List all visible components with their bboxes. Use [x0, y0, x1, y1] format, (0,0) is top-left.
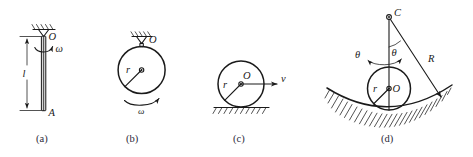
label-omega-a: ω — [56, 43, 63, 54]
label-pivot-b: O — [149, 34, 157, 45]
physics-figure: O ω A l (a) — [0, 0, 473, 157]
panel-caption-c: (c) — [233, 133, 245, 145]
label-velocity-c: v — [281, 73, 286, 84]
label-length-a: l — [23, 68, 26, 79]
label-theta-upper-d: θ — [392, 47, 397, 58]
rod-a — [41, 36, 45, 111]
panel-caption-b: (b) — [126, 133, 139, 145]
panel-caption-d: (d) — [381, 133, 394, 145]
label-radius-R-d: R — [427, 53, 435, 64]
label-disc-center-d: O — [393, 83, 401, 94]
label-pivot-a: O — [49, 31, 57, 42]
panel-caption-a: (a) — [36, 133, 48, 145]
figure-canvas: O ω A l (a) — [0, 0, 473, 157]
label-curvature-center-d: C — [394, 7, 402, 18]
label-theta-lower-d: θ — [355, 49, 360, 60]
label-end-a: A — [48, 107, 56, 118]
label-center-c: O — [243, 70, 251, 81]
label-omega-b: ω — [138, 106, 144, 116]
